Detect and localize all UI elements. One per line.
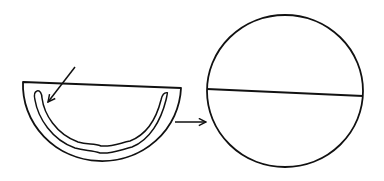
inner-wavy-band xyxy=(34,91,168,153)
diagram-canvas xyxy=(0,0,384,181)
diagram-svg xyxy=(0,0,384,181)
full-circle xyxy=(207,15,363,167)
diameter-line xyxy=(207,89,363,96)
